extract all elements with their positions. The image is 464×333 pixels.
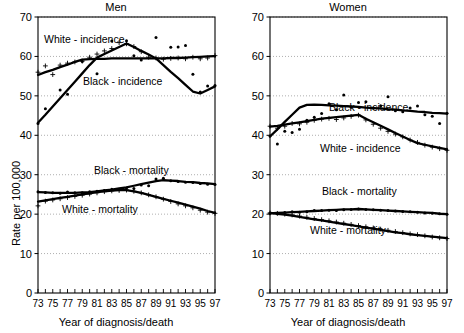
svg-text:91: 91 bbox=[397, 298, 409, 309]
svg-text:0: 0 bbox=[26, 287, 32, 299]
series-label-white-incidence-women: White - incidence bbox=[320, 142, 401, 154]
svg-text:40: 40 bbox=[20, 129, 32, 141]
series-label-white-incidence-men: White - incidence bbox=[44, 33, 125, 45]
series-label-black-mortality-women: Black - mortality bbox=[322, 185, 397, 197]
svg-text:95: 95 bbox=[195, 298, 207, 309]
svg-text:87: 87 bbox=[136, 298, 148, 309]
svg-text:0: 0 bbox=[258, 287, 264, 299]
svg-text:93: 93 bbox=[412, 298, 424, 309]
x-axis-label-men: Year of diagnosis/death bbox=[0, 316, 232, 328]
svg-text:95: 95 bbox=[427, 298, 439, 309]
svg-text:77: 77 bbox=[62, 298, 74, 309]
chart-panel-women: Women 0102030405060707375777981838587899… bbox=[232, 0, 464, 333]
plot-area-women: 0102030405060707375777981838587899193959… bbox=[232, 0, 464, 333]
svg-text:40: 40 bbox=[252, 129, 264, 141]
svg-text:10: 10 bbox=[252, 248, 264, 260]
svg-text:91: 91 bbox=[165, 298, 177, 309]
svg-text:70: 70 bbox=[252, 11, 264, 23]
series-label-black-mortality-men: Black - mortality bbox=[94, 164, 169, 176]
svg-text:73: 73 bbox=[264, 298, 276, 309]
figure-root: Men 010203040506070737577798183858789919… bbox=[0, 0, 464, 333]
svg-text:70: 70 bbox=[20, 11, 32, 23]
svg-text:81: 81 bbox=[91, 298, 103, 309]
svg-text:81: 81 bbox=[323, 298, 335, 309]
svg-text:60: 60 bbox=[252, 50, 264, 62]
x-axis-label-women: Year of diagnosis/death bbox=[232, 316, 464, 328]
svg-text:97: 97 bbox=[209, 298, 221, 309]
svg-text:85: 85 bbox=[121, 298, 133, 309]
svg-text:50: 50 bbox=[20, 90, 32, 102]
svg-text:79: 79 bbox=[77, 298, 89, 309]
svg-text:20: 20 bbox=[252, 208, 264, 220]
svg-text:83: 83 bbox=[106, 298, 118, 309]
svg-text:97: 97 bbox=[441, 298, 453, 309]
svg-text:77: 77 bbox=[294, 298, 306, 309]
series-label-black-incidence-women: Black - incidence bbox=[329, 101, 408, 113]
svg-text:83: 83 bbox=[338, 298, 350, 309]
svg-text:89: 89 bbox=[150, 298, 162, 309]
svg-text:87: 87 bbox=[368, 298, 380, 309]
series-label-white-mortality-women: White - mortality bbox=[310, 224, 386, 236]
svg-text:93: 93 bbox=[180, 298, 192, 309]
svg-text:89: 89 bbox=[382, 298, 394, 309]
svg-text:75: 75 bbox=[47, 298, 59, 309]
series-label-black-incidence-men: Black - incidence bbox=[83, 75, 162, 87]
svg-text:85: 85 bbox=[353, 298, 365, 309]
svg-text:73: 73 bbox=[32, 298, 44, 309]
svg-text:60: 60 bbox=[20, 50, 32, 62]
series-label-white-mortality-men: White - mortality bbox=[62, 203, 138, 215]
svg-text:50: 50 bbox=[252, 90, 264, 102]
y-axis-label-men: Rate per 100,000 bbox=[10, 161, 22, 246]
svg-text:79: 79 bbox=[309, 298, 321, 309]
svg-text:10: 10 bbox=[20, 248, 32, 260]
svg-text:30: 30 bbox=[252, 169, 264, 181]
svg-text:75: 75 bbox=[279, 298, 291, 309]
chart-panel-men: Men 010203040506070737577798183858789919… bbox=[0, 0, 232, 333]
